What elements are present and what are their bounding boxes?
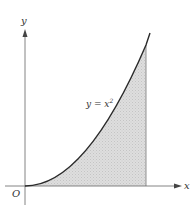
y-axis-label: y [20,15,27,26]
y-axis-arrow-icon [23,29,28,37]
shaded-area [25,45,146,186]
x-axis-arrow-icon [174,184,182,189]
area-under-parabola-diagram: y x O y = x2 [0,0,192,217]
equation-base: y = x [85,99,109,109]
origin-label: O [12,188,20,199]
x-axis-label: x [184,180,190,191]
curve-equation-label: y = x2 [85,97,113,109]
equation-exponent: 2 [108,97,113,104]
